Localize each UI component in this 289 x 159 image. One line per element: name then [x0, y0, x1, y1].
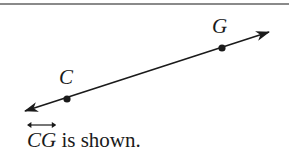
- line-name-text: CG: [27, 128, 56, 152]
- caption-text: is shown.: [56, 128, 141, 152]
- caption: CG is shown.: [27, 128, 141, 152]
- double-arrow-icon: [27, 121, 56, 129]
- point-g-dot: [218, 44, 225, 51]
- point-g-label: G: [212, 14, 227, 38]
- line-notation: CG: [27, 128, 56, 152]
- point-c-dot: [63, 95, 70, 102]
- point-c-label: C: [59, 65, 74, 89]
